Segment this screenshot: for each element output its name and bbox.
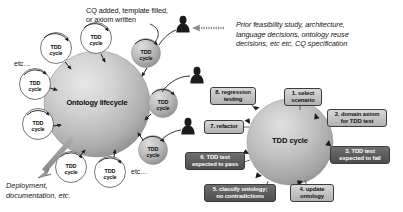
tdd-satellite-outline-3	[20, 69, 51, 100]
annotation-prior-feasibility: Prior feasibility study, architecture, l…	[236, 20, 349, 49]
annotation-deployment: Deployment, documentation, etc.	[6, 181, 71, 200]
tdd-step-1[interactable]: 1. select scenario	[284, 88, 322, 106]
tdd-step-3[interactable]: 3. TDD test expected to fail	[330, 146, 390, 164]
tdd-satellite-outline-4	[23, 109, 54, 140]
actor-silhouette-1	[176, 16, 189, 33]
tdd-step-4[interactable]: 4. update ontology	[290, 184, 334, 202]
ontology-lifecycle-sphere	[44, 51, 150, 157]
tdd-step-7[interactable]: 7. refactor	[204, 120, 244, 134]
tdd-step-6[interactable]: 6. TDD test expected to pass	[185, 152, 245, 170]
tdd-satellite-outline-6	[95, 157, 126, 188]
tdd-step-8[interactable]: 8. regression testing	[210, 87, 256, 105]
actor-silhouette-3	[181, 118, 194, 135]
tdd-arrow-6-to-7	[244, 118, 250, 124]
tdd-step-5[interactable]: 5. classify ontology; no contradictions	[204, 184, 276, 202]
diagram-canvas: CQ added, template filled, or axiom writ…	[0, 0, 403, 212]
annotation-cq-added: CQ added, template filled, or axiom writ…	[86, 6, 168, 25]
tdd-arrow-8-to-1	[253, 106, 260, 111]
annotation-etc-bottom: etc…	[131, 168, 147, 175]
annotation-etc-left: etc…	[14, 60, 30, 67]
actor-silhouette-2	[190, 67, 203, 84]
prior-feasibility-arrow	[192, 25, 224, 32]
tdd-cycle-sphere	[247, 99, 333, 185]
tdd-step-2[interactable]: 2. domain axiom for TDD test	[327, 109, 387, 127]
